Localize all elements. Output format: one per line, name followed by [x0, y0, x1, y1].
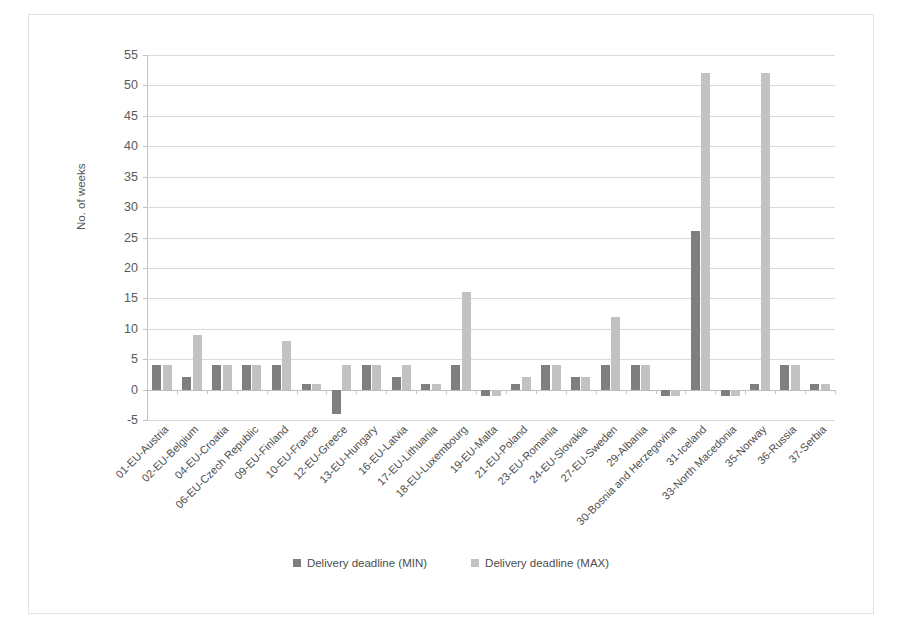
- bar-max: [611, 317, 620, 390]
- bar-group: [326, 55, 356, 420]
- y-axis-tick-label: 35: [124, 170, 138, 184]
- bar-min: [631, 365, 640, 389]
- bar-group: [685, 55, 715, 420]
- bar-group: [805, 55, 835, 420]
- bar-min: [511, 384, 520, 390]
- bar-max: [671, 390, 680, 396]
- bar-min: [152, 365, 161, 389]
- bar-max: [252, 365, 261, 389]
- bar-max: [432, 384, 441, 390]
- y-axis-tick-label: 40: [124, 139, 138, 153]
- bar-max: [282, 341, 291, 390]
- y-axis-tick-label: 45: [124, 109, 138, 123]
- bar-min: [451, 365, 460, 389]
- bar-group: [656, 55, 686, 420]
- bar-max: [731, 390, 740, 396]
- bar-min: [481, 390, 490, 396]
- bar-group: [356, 55, 386, 420]
- x-axis-labels: 01-EU-Austria02-EU-Belgium04-EU-Croatia0…: [147, 423, 835, 563]
- bar-max: [641, 365, 650, 389]
- bar-min: [362, 365, 371, 389]
- bar-max: [492, 390, 501, 396]
- bar-max: [372, 365, 381, 389]
- bar-group: [745, 55, 775, 420]
- bar-group: [416, 55, 446, 420]
- gridline: [147, 420, 835, 421]
- plot-area: -50510152025303540455055: [147, 55, 835, 420]
- bar-max: [462, 292, 471, 389]
- bar-min: [661, 390, 670, 396]
- bar-group: [267, 55, 297, 420]
- bar-group: [715, 55, 745, 420]
- bar-group: [386, 55, 416, 420]
- bar-group: [147, 55, 177, 420]
- y-axis-tick-label: 55: [124, 48, 138, 62]
- y-axis-tick-label: 25: [124, 231, 138, 245]
- bar-max: [791, 365, 800, 389]
- x-axis-tick-mark: [835, 390, 836, 394]
- bar-min: [392, 377, 401, 389]
- bar-min: [721, 390, 730, 396]
- bar-max: [701, 73, 710, 389]
- bar-min: [541, 365, 550, 389]
- y-axis-tick-label: 30: [124, 200, 138, 214]
- y-axis-tick-mark: [143, 420, 147, 421]
- bar-group: [177, 55, 207, 420]
- y-axis-tick-label: 5: [131, 352, 138, 366]
- bar-max: [163, 365, 172, 389]
- bar-max: [342, 365, 351, 389]
- bar-group: [476, 55, 506, 420]
- legend-swatch-icon: [471, 559, 479, 567]
- bar-group: [596, 55, 626, 420]
- bar-max: [312, 384, 321, 390]
- y-axis-tick-label: 15: [124, 291, 138, 305]
- bar-max: [821, 384, 830, 390]
- bar-max: [223, 365, 232, 389]
- bar-min: [332, 390, 341, 414]
- bar-max: [522, 377, 531, 389]
- bar-min: [242, 365, 251, 389]
- y-axis-tick-label: 0: [131, 383, 138, 397]
- bar-group: [536, 55, 566, 420]
- legend-swatch-icon: [293, 559, 301, 567]
- bar-group: [566, 55, 596, 420]
- bar-min: [810, 384, 819, 390]
- bar-max: [402, 365, 411, 389]
- bar-min: [691, 231, 700, 389]
- chart-legend: Delivery deadline (MIN)Delivery deadline…: [29, 557, 873, 569]
- y-axis-tick-label: 20: [124, 261, 138, 275]
- bar-min: [212, 365, 221, 389]
- bar-max: [581, 377, 590, 389]
- bar-max: [193, 335, 202, 390]
- bar-min: [750, 384, 759, 390]
- bar-group: [446, 55, 476, 420]
- y-axis-tick-label: 50: [124, 78, 138, 92]
- bar-max: [761, 73, 770, 389]
- bar-min: [421, 384, 430, 390]
- y-axis-tick-label: -5: [127, 413, 138, 427]
- bar-min: [182, 377, 191, 389]
- legend-label: Delivery deadline (MAX): [485, 557, 609, 569]
- y-axis-title: No. of weeks: [75, 164, 87, 230]
- y-axis-tick-label: 10: [124, 322, 138, 336]
- chart-container: No. of weeks -50510152025303540455055 01…: [28, 14, 874, 614]
- bar-min: [780, 365, 789, 389]
- bar-group: [506, 55, 536, 420]
- legend-label: Delivery deadline (MIN): [307, 557, 427, 569]
- bar-group: [237, 55, 267, 420]
- bar-group: [775, 55, 805, 420]
- legend-item[interactable]: Delivery deadline (MIN): [293, 557, 427, 569]
- bar-max: [552, 365, 561, 389]
- bar-group: [207, 55, 237, 420]
- bar-group: [626, 55, 656, 420]
- bar-min: [601, 365, 610, 389]
- bar-min: [272, 365, 281, 389]
- bar-min: [571, 377, 580, 389]
- bar-min: [302, 384, 311, 390]
- legend-item[interactable]: Delivery deadline (MAX): [471, 557, 609, 569]
- bar-group: [297, 55, 327, 420]
